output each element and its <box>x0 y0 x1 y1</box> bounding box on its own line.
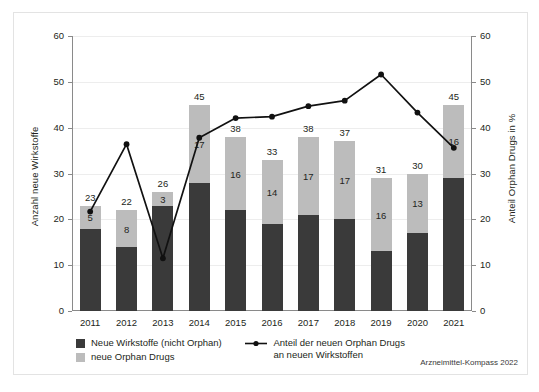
y-tick-label-left: 0 <box>24 305 64 316</box>
y-tick-right <box>472 82 476 83</box>
share-line-point[interactable] <box>451 145 457 151</box>
share-line-point[interactable] <box>196 135 202 141</box>
chart-figure: Anzahl neue Wirkstoffe Anteil Orphan Dru… <box>13 12 528 375</box>
share-line-point[interactable] <box>415 110 421 116</box>
legend-label-share-line2: an neuen Wirkstoffen <box>273 349 405 361</box>
legend-swatch-light-icon <box>76 353 85 362</box>
legend-label-share-line1: Anteil der neuen Orphan Drugs <box>273 337 405 349</box>
line-series <box>72 36 472 311</box>
plot-area: 0102030405060 0102030405060 235228263451… <box>72 36 472 311</box>
y-tick-label-left: 50 <box>24 76 64 87</box>
share-line-path <box>90 75 454 259</box>
y-tick-label-left: 30 <box>24 168 64 179</box>
y-tick-right <box>472 128 476 129</box>
share-line-point[interactable] <box>378 72 384 78</box>
share-line-point[interactable] <box>342 98 348 104</box>
y-tick-left <box>68 311 72 312</box>
y-tick-label-right: 30 <box>480 168 520 179</box>
share-line-point[interactable] <box>269 114 275 120</box>
legend-swatch-dark-icon <box>76 339 85 348</box>
share-line-point[interactable] <box>233 115 239 121</box>
legend-item-orphan: neue Orphan Drugs <box>76 351 222 363</box>
share-line-point[interactable] <box>160 255 166 261</box>
legend-item-non-orphan: Neue Wirkstoffe (nicht Orphan) <box>76 337 222 349</box>
legend-label-non-orphan: Neue Wirkstoffe (nicht Orphan) <box>91 337 222 349</box>
y-tick-right <box>472 311 476 312</box>
legend-column-line: Anteil der neuen Orphan Drugs an neuen W… <box>245 337 405 363</box>
y-tick-right <box>472 36 476 37</box>
source-credit: Arzneimittel-Kompass 2022 <box>420 358 518 367</box>
y-tick-label-right: 60 <box>480 30 520 41</box>
chart-legend: Neue Wirkstoffe (nicht Orphan) neue Orph… <box>76 337 405 365</box>
legend-column-bars: Neue Wirkstoffe (nicht Orphan) neue Orph… <box>76 337 222 365</box>
share-line-point[interactable] <box>305 103 311 109</box>
legend-item-share-line: Anteil der neuen Orphan Drugs an neuen W… <box>245 337 405 361</box>
y-tick-label-left: 20 <box>24 213 64 224</box>
y-tick-label-right: 40 <box>480 122 520 133</box>
y-tick-right <box>472 265 476 266</box>
y-tick-label-right: 20 <box>480 213 520 224</box>
y-tick-label-right: 50 <box>480 76 520 87</box>
y-tick-label-right: 0 <box>480 305 520 316</box>
y-tick-label-left: 40 <box>24 122 64 133</box>
share-line-point[interactable] <box>87 209 93 215</box>
legend-line-marker-icon <box>245 338 267 349</box>
y-tick-label-right: 10 <box>480 259 520 270</box>
y-tick-label-left: 60 <box>24 30 64 41</box>
x-axis-label: 2021 <box>432 317 476 328</box>
share-line-point[interactable] <box>124 141 130 147</box>
y-tick-right <box>472 174 476 175</box>
legend-label-orphan: neue Orphan Drugs <box>91 351 174 363</box>
y-tick-label-left: 10 <box>24 259 64 270</box>
y-tick-right <box>472 219 476 220</box>
